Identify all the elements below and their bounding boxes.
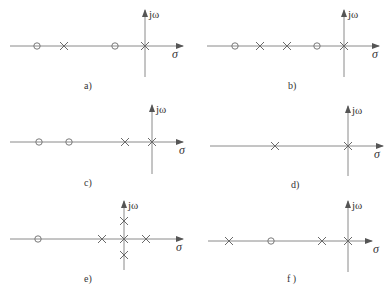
jw-label: jω bbox=[347, 8, 358, 20]
panel-f: jω σ f ) bbox=[208, 199, 380, 285]
jw-label: jω bbox=[351, 199, 362, 211]
panel-caption: a) bbox=[84, 80, 92, 92]
sigma-label: σ bbox=[176, 240, 183, 254]
sigma-label: σ bbox=[179, 143, 186, 157]
sigma-label: σ bbox=[373, 242, 380, 256]
pole-zero-figure: jω σ a) jω σ b) jω σ c) jω σ d) bbox=[0, 0, 391, 291]
panel-caption: e) bbox=[84, 273, 92, 285]
sigma-label: σ bbox=[172, 47, 179, 61]
panel-caption: f ) bbox=[287, 273, 296, 285]
panel-d: jω σ d) bbox=[210, 104, 383, 191]
panel-caption: d) bbox=[291, 179, 299, 191]
jw-label: jω bbox=[127, 199, 138, 211]
panel-a: jω σ a) bbox=[10, 8, 183, 92]
jw-label: jω bbox=[148, 8, 159, 20]
panel-c: jω σ c) bbox=[10, 103, 186, 189]
panel-caption: c) bbox=[84, 177, 92, 189]
panel-b: jω σ b) bbox=[207, 8, 379, 92]
jw-label: jω bbox=[351, 104, 362, 116]
jw-label: jω bbox=[155, 103, 166, 115]
panel-caption: b) bbox=[288, 80, 296, 92]
panel-e: jω σ e) bbox=[10, 199, 183, 285]
sigma-label: σ bbox=[374, 147, 381, 161]
pole-zero-diagrams: jω σ a) jω σ b) jω σ c) jω σ d) bbox=[0, 0, 391, 291]
sigma-label: σ bbox=[372, 47, 379, 61]
